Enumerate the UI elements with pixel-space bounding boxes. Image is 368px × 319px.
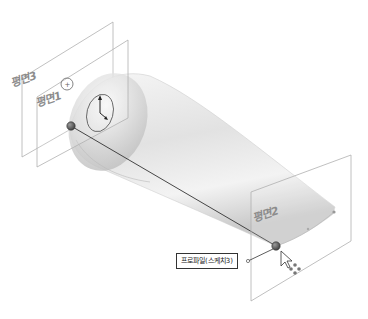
connector-point-end[interactable] [272, 242, 280, 250]
svg-text:+: + [65, 81, 71, 89]
profile-callout[interactable]: 프로파일(스케치3) [176, 253, 238, 269]
connector-point-start[interactable] [67, 122, 75, 130]
cad-graphics-area[interactable]: + 평면3 평면1 평면2 프로파일(스케치3) [0, 0, 368, 319]
